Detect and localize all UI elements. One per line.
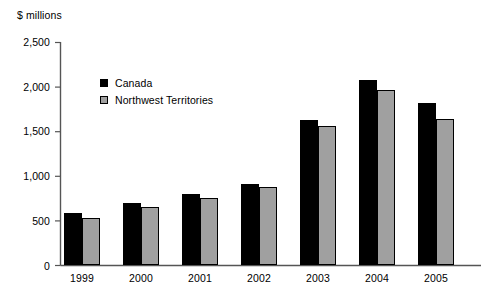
chart-legend: Canada Northwest Territories <box>100 74 213 108</box>
bar-northwest-territories-2000 <box>141 207 159 265</box>
y-axis-tick-label: 1,000 <box>6 170 50 182</box>
y-axis-tick-label: 2,000 <box>6 81 50 93</box>
x-axis-tick-label: 2004 <box>354 272 400 284</box>
bar-northwest-territories-2001 <box>200 198 218 266</box>
y-axis-unit-label: $ millions <box>17 9 62 21</box>
bar-northwest-territories-2003 <box>318 126 336 266</box>
legend-item-canada: Canada <box>100 74 213 91</box>
y-axis-tick-label: 0 <box>6 260 50 272</box>
bar-canada-2004 <box>359 80 377 265</box>
bar-canada-2001 <box>182 194 200 265</box>
bar-northwest-territories-2004 <box>377 90 395 265</box>
y-axis-tick-label: 2,500 <box>6 36 50 48</box>
legend-label-northwest-territories: Northwest Territories <box>115 94 213 106</box>
bar-northwest-territories-2005 <box>436 119 454 266</box>
legend-swatch-canada-icon <box>100 79 108 87</box>
x-axis-tick-label: 2005 <box>413 272 459 284</box>
legend-swatch-nwt-icon <box>100 96 108 104</box>
bar-canada-2003 <box>300 120 318 266</box>
bar-canada-2005 <box>418 103 436 266</box>
x-axis-tick-label: 2001 <box>177 272 223 284</box>
bar-canada-1999 <box>64 213 82 266</box>
bar-canada-2002 <box>241 184 259 265</box>
bar-northwest-territories-2002 <box>259 187 277 266</box>
bar-chart: $ millions 05001,0001,5002,0002,500 1999… <box>0 0 500 306</box>
x-axis-tick-label: 1999 <box>59 272 105 284</box>
x-axis-tick-label: 2002 <box>236 272 282 284</box>
x-axis-tick-label: 2003 <box>295 272 341 284</box>
y-axis-tick-label: 1,500 <box>6 125 50 137</box>
legend-label-canada: Canada <box>115 77 152 89</box>
y-axis-tick-label: 500 <box>6 215 50 227</box>
x-axis-tick-label: 2000 <box>118 272 164 284</box>
bar-northwest-territories-1999 <box>82 218 100 266</box>
legend-item-northwest-territories: Northwest Territories <box>100 91 213 108</box>
bar-canada-2000 <box>123 203 141 266</box>
